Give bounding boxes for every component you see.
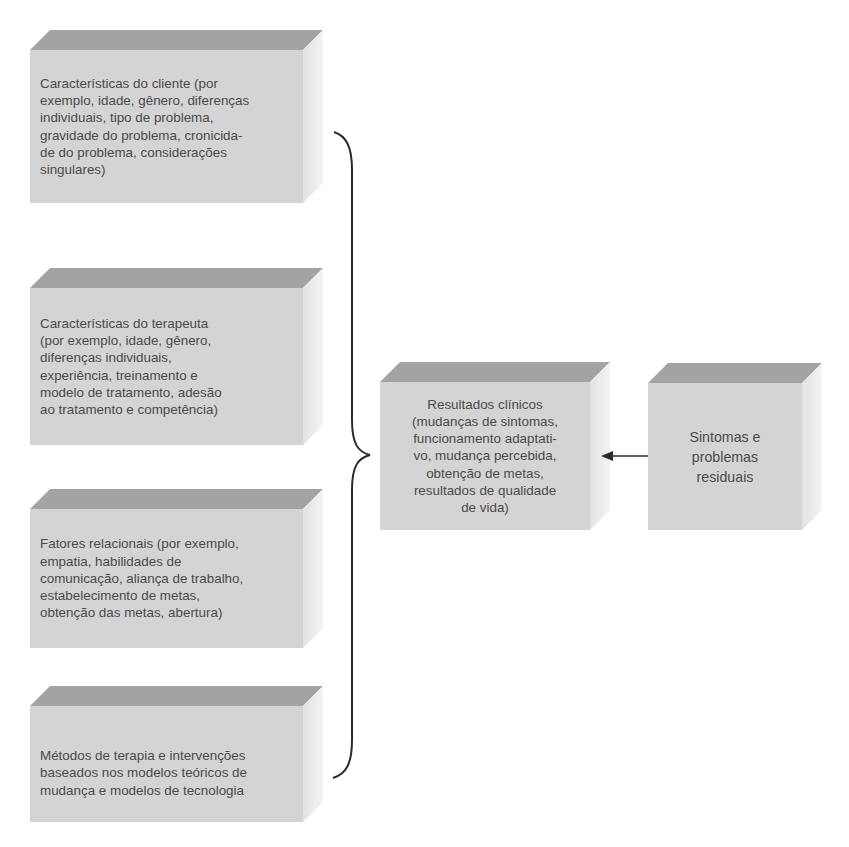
connectors-layer [0,0,849,847]
curly-brace-icon [333,132,370,778]
arrow-left-icon [601,451,648,461]
